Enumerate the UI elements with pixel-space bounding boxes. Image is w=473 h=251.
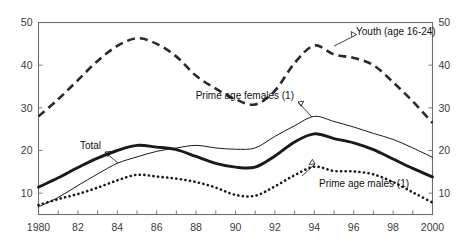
y-tick-label-right: 20 — [439, 144, 451, 156]
chart-background — [0, 0, 473, 251]
x-tick-label: 96 — [348, 221, 360, 233]
x-tick-label: 1980 — [27, 221, 51, 233]
annotation-prime-age-males: Prime age males (1) — [319, 178, 409, 189]
x-tick-label: 98 — [387, 221, 399, 233]
y-tick-label-right: 50 — [439, 16, 451, 28]
y-tick-label-left: 50 — [21, 16, 33, 28]
annotation-youth: Youth (age 16-24) — [356, 26, 436, 37]
y-tick-label-right: 10 — [439, 187, 451, 199]
x-tick-label: 92 — [269, 221, 281, 233]
y-tick-label-right: 30 — [439, 102, 451, 114]
x-tick-label: 82 — [72, 221, 84, 233]
x-tick-label: 90 — [230, 221, 242, 233]
annotation-total: Total — [80, 140, 101, 151]
y-tick-label-left: 10 — [21, 187, 33, 199]
x-tick-label: 84 — [111, 221, 123, 233]
annotation-prime-age-females: Prime age females (1) — [196, 90, 294, 101]
chart-container: 1020304050 1020304050 198082848688909294… — [0, 0, 473, 251]
x-tick-label: 88 — [190, 221, 202, 233]
x-tick-label: 94 — [308, 221, 320, 233]
x-tick-label: 2000 — [421, 221, 445, 233]
unemployment-rate-line-chart: 1020304050 1020304050 198082848688909294… — [0, 0, 473, 251]
y-tick-label-left: 30 — [21, 102, 33, 114]
y-tick-label-left: 20 — [21, 144, 33, 156]
y-tick-label-right: 40 — [439, 59, 451, 71]
y-tick-label-left: 40 — [21, 59, 33, 71]
x-tick-label: 86 — [151, 221, 163, 233]
